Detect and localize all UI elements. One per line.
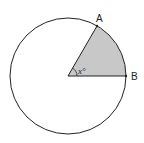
label-b: B [131,71,138,82]
shaded-sector [68,26,126,76]
label-angle: x° [77,66,86,76]
point-a-dot [96,25,98,27]
point-b-dot [125,75,127,77]
label-a: A [96,13,103,24]
circle-sector-diagram: A B x° [0,0,144,143]
